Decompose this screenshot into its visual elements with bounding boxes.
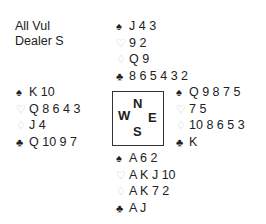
south-hand: ♠A 6 2 ♡A K J 10 ♢A K 7 2 ♣A J [116,150,176,216]
heart-icon: ♡ [116,35,129,52]
north-clubs: 8 6 5 4 3 2 [129,69,188,83]
west-hearts: Q 8 6 4 3 [29,102,80,116]
heart-icon: ♡ [116,167,129,184]
west-hand: ♠K 10 ♡Q 8 6 4 3 ♢J 4 ♣Q 10 9 7 [16,84,80,150]
heart-icon: ♡ [16,101,29,118]
club-icon: ♣ [116,68,129,85]
east-diamonds: 10 8 6 5 3 [189,118,245,132]
north-diamonds: Q 9 [129,52,149,66]
compass-east: E [148,110,157,125]
east-spades: Q 9 8 7 5 [189,85,240,99]
club-icon: ♣ [176,134,189,151]
vulnerability-label: All Vul [15,19,64,34]
compass-north: N [133,96,142,111]
heart-icon: ♡ [176,101,189,118]
south-hearts: A K J 10 [129,168,176,182]
south-clubs: A J [129,201,146,215]
south-spades: A 6 2 [129,151,158,165]
east-hand: ♠Q 9 8 7 5 ♡7 5 ♢10 8 6 5 3 ♣K [176,84,245,150]
club-icon: ♣ [116,200,129,217]
north-hearts: 9 2 [129,36,146,50]
spade-icon: ♠ [16,84,29,101]
compass-south: S [133,124,142,139]
spade-icon: ♠ [176,84,189,101]
south-diamonds: A K 7 2 [129,184,169,198]
spade-icon: ♠ [116,150,129,167]
diamond-icon: ♢ [176,117,189,134]
club-icon: ♣ [16,134,29,151]
north-spades: J 4 3 [129,19,156,33]
diamond-icon: ♢ [116,183,129,200]
north-hand: ♠J 4 3 ♡9 2 ♢Q 9 ♣8 6 5 4 3 2 [116,18,188,84]
east-clubs: K [189,135,197,149]
diamond-icon: ♢ [116,51,129,68]
compass-box: N W E S [112,91,164,146]
compass-west: W [118,108,130,123]
spade-icon: ♠ [116,18,129,35]
dealer-label: Dealer S [15,34,64,49]
deal-info: All Vul Dealer S [15,19,64,49]
west-spades: K 10 [29,85,55,99]
west-diamonds: J 4 [29,118,46,132]
east-hearts: 7 5 [189,102,206,116]
diamond-icon: ♢ [16,117,29,134]
west-clubs: Q 10 9 7 [29,135,77,149]
